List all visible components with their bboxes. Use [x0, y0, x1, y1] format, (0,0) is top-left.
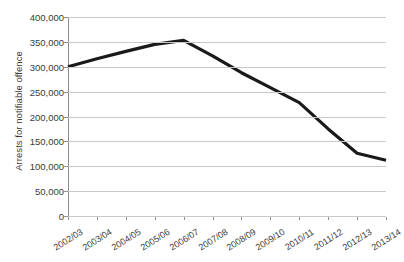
y-axis-tick-mark	[64, 191, 68, 192]
x-axis-tick-mark	[299, 217, 300, 220]
y-axis-tick-mark	[64, 166, 68, 167]
x-axis-tick-mark	[270, 217, 271, 220]
y-axis-tick-mark	[64, 141, 68, 142]
x-axis-tick-mark	[126, 217, 127, 220]
x-axis-tick-mark	[386, 217, 387, 220]
x-axis-tick-mark	[184, 217, 185, 220]
y-axis-tick-mark	[64, 17, 68, 18]
x-axis-tick-mark	[213, 217, 214, 220]
x-axis-tick-mark	[97, 217, 98, 220]
x-axis-tick-mark	[241, 217, 242, 220]
x-axis-tick-mark	[328, 217, 329, 220]
y-axis-tick-mark	[64, 92, 68, 93]
x-axis-tick-mark	[68, 217, 69, 220]
y-axis-tick-mark	[64, 67, 68, 68]
x-axis-tick-labels: 2002/032003/042004/052005/062006/072007/…	[0, 0, 404, 262]
x-axis-tick-mark	[155, 217, 156, 220]
line-chart: Arrests for notifiable offence 050,00010…	[0, 0, 404, 262]
x-axis-tick-mark	[357, 217, 358, 220]
y-axis-tick-mark	[64, 117, 68, 118]
y-axis-tick-mark	[64, 42, 68, 43]
